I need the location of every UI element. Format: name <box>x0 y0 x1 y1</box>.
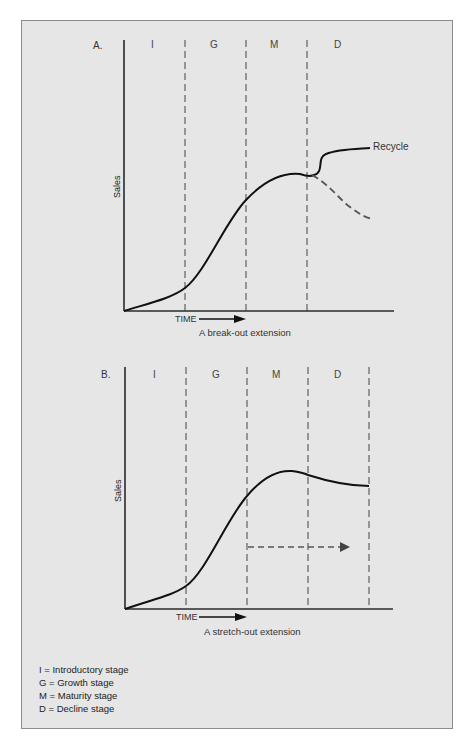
x-axis-label-a: TIME <box>175 314 197 324</box>
stage-label-d: D <box>334 39 341 50</box>
y-axis-label-a: Sales <box>112 175 122 198</box>
time-arrow-a <box>199 315 246 323</box>
panel-b-extension-arrow <box>248 542 350 552</box>
stage-label-g: G <box>210 39 218 50</box>
panel-a-stage-dividers <box>185 40 307 311</box>
recycle-annotation: Recycle <box>373 141 409 152</box>
stage-label-i: I <box>151 39 154 50</box>
stage-legend: I = Introductory stage G = Growth stage … <box>39 663 129 715</box>
legend-item: M = Maturity stage <box>39 689 129 702</box>
panel-a-label: A. <box>93 40 102 51</box>
stage-label-m: M <box>270 39 278 50</box>
panel-a-sales-curve <box>124 148 370 311</box>
stage-label-g: G <box>212 369 220 380</box>
y-axis-label-b: Sales <box>113 479 123 502</box>
stage-label-d: D <box>334 369 341 380</box>
stage-label-i: I <box>153 369 156 380</box>
stage-label-m: M <box>272 369 280 380</box>
panel-a-decline-curve <box>312 175 372 219</box>
panel-b-caption: A stretch-out extension <box>204 626 301 637</box>
panel-b-label: B. <box>101 369 110 380</box>
time-arrow-b <box>199 613 247 621</box>
panel-a-caption: A break-out extension <box>199 327 291 338</box>
panel-b-axes <box>125 367 393 609</box>
legend-item: D = Decline stage <box>39 702 129 715</box>
legend-item: I = Introductory stage <box>39 663 129 676</box>
x-axis-label-b: TIME <box>176 612 198 622</box>
panel-b-stage-dividers <box>186 367 369 609</box>
panel-a-axes <box>124 40 394 311</box>
legend-item: G = Growth stage <box>39 676 129 689</box>
